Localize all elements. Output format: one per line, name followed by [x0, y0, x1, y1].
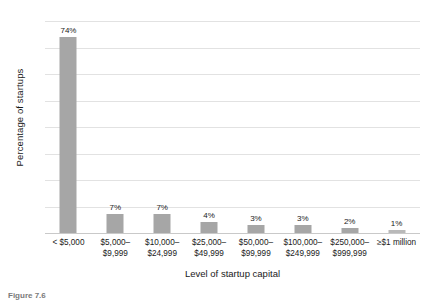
bars-group: 74%7%7%4%3%3%2%1% [45, 21, 420, 233]
bar[interactable] [107, 214, 124, 233]
x-axis-tick-label: $250,000– $999,999 [326, 238, 373, 259]
x-axis-tick-label: $5,000– $9,999 [92, 238, 139, 259]
x-axis-tick-label: ≥$1 million [373, 238, 420, 249]
bar-slot[interactable]: 4% [186, 21, 233, 233]
bar[interactable] [60, 37, 77, 233]
bar[interactable] [294, 225, 311, 233]
bar-slot[interactable]: 3% [279, 21, 326, 233]
x-axis-title: Level of startup capital [45, 268, 420, 279]
bar-value-label: 3% [250, 214, 262, 223]
y-axis-title: Percentage of startups [14, 33, 25, 203]
bar-slot[interactable]: 7% [92, 21, 139, 233]
bar-slot[interactable]: 7% [139, 21, 186, 233]
bar-slot[interactable]: 2% [326, 21, 373, 233]
bar[interactable] [201, 222, 218, 233]
x-axis-tick-label: $100,000– $249,999 [279, 238, 326, 259]
x-axis-tick-label: < $5,000 [45, 238, 92, 249]
bar-value-label: 2% [344, 217, 356, 226]
bar-value-label: 4% [203, 211, 215, 220]
bar-value-label: 1% [391, 219, 403, 228]
figure-container: Percentage of startups 0%10%20%30%40%50%… [0, 0, 434, 302]
bar-value-label: 3% [297, 214, 309, 223]
bar-value-label: 7% [110, 203, 122, 212]
bar-slot[interactable]: 3% [233, 21, 280, 233]
x-axis-tick-label: $50,000– $99,999 [233, 238, 280, 259]
x-axis-tick-label: $10,000– $24,999 [139, 238, 186, 259]
bar-value-label: 7% [156, 203, 168, 212]
bar-value-label: 74% [60, 26, 76, 35]
bar[interactable] [388, 230, 405, 233]
x-axis-tick-label: $25,000– $49,999 [186, 238, 233, 259]
figure-caption: Figure 7.6 [8, 291, 46, 300]
bar[interactable] [341, 228, 358, 233]
bar-slot[interactable]: 1% [373, 21, 420, 233]
bar[interactable] [154, 214, 171, 233]
plot-area: 0%10%20%30%40%50%60%70%80% 74%7%7%4%3%3%… [45, 21, 420, 233]
bar[interactable] [247, 225, 264, 233]
gridline [45, 233, 420, 234]
bar-slot[interactable]: 74% [45, 21, 92, 233]
